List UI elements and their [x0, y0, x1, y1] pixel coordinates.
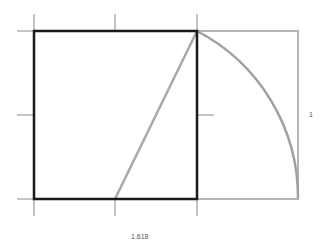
- height-label: 1: [309, 111, 313, 118]
- width-label: 1.618: [131, 233, 149, 240]
- unit-square: [34, 31, 197, 199]
- golden-rectangle-diagram: 1.618 1: [0, 0, 324, 248]
- tick-marks: [17, 14, 214, 216]
- diagonal-line: [115, 31, 197, 199]
